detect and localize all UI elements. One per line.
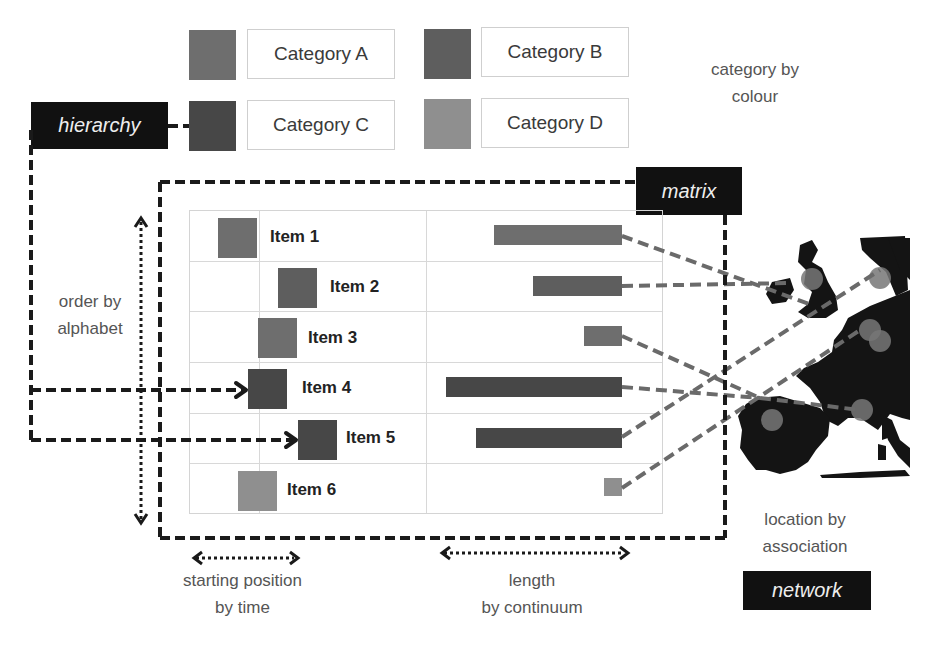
diagram-overlay [0, 0, 937, 653]
link-item-1 [622, 236, 812, 305]
matrix-frame [160, 182, 725, 538]
location-marker-spain [761, 409, 783, 431]
location-marker-france-north-2 [869, 330, 891, 352]
hierarchy-connectors [31, 126, 294, 440]
time-arrow [194, 552, 298, 564]
length-arrow [442, 547, 628, 559]
link-item-2 [622, 283, 790, 286]
hierarchy-arrowheads [236, 383, 296, 447]
order-arrow [135, 218, 147, 523]
location-marker-britain [801, 268, 823, 290]
